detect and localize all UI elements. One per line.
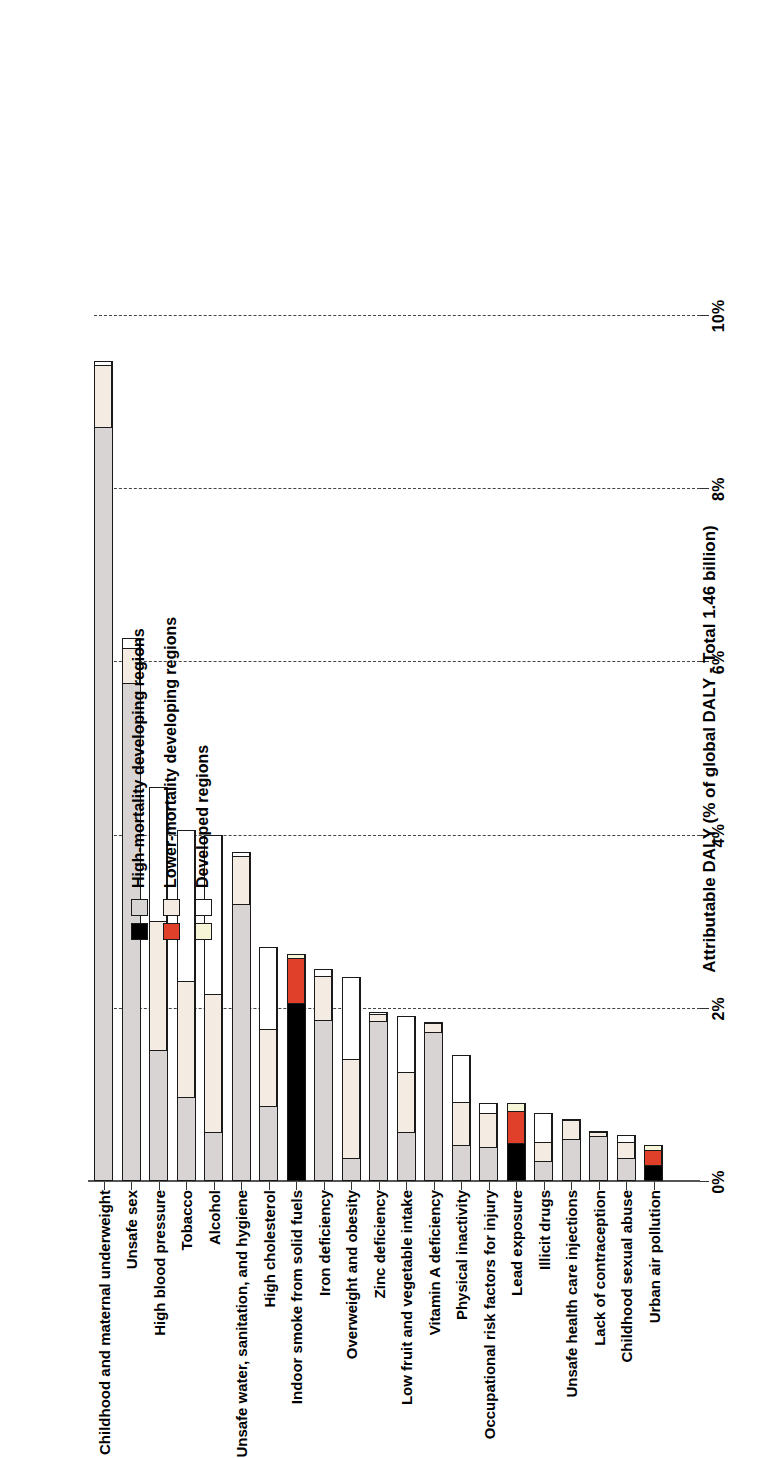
category-label: Vitamin A deficiency	[425, 1190, 442, 1335]
bar-segment-high-mortality	[618, 1159, 635, 1180]
legend-swatch-alt	[163, 923, 180, 940]
bar-segment-developed	[618, 1136, 635, 1143]
legend-swatch	[131, 899, 148, 916]
bar	[94, 361, 113, 1181]
category-tick	[434, 1182, 435, 1190]
bar-segment-lower-mortality	[508, 1112, 525, 1144]
bar-segment-high-mortality	[645, 1166, 662, 1180]
bar-segment-high-mortality	[590, 1137, 607, 1180]
bar-segment-developed	[645, 1147, 662, 1152]
legend-swatch	[195, 899, 212, 916]
bar	[479, 1103, 498, 1181]
bar-segment-lower-mortality	[618, 1143, 635, 1160]
bar	[507, 1103, 526, 1181]
category-label: Zinc deficiency	[370, 1190, 387, 1298]
bar-segment-lower-mortality	[563, 1121, 580, 1139]
bar-segment-developed	[288, 955, 305, 958]
bar-segment-lower-mortality	[288, 959, 305, 1005]
legend-swatch-alt	[195, 923, 212, 940]
bar	[424, 1022, 443, 1181]
bar-segment-developed	[343, 979, 360, 1060]
category-tick	[324, 1182, 325, 1190]
bar-segment-high-mortality	[370, 1022, 387, 1180]
category-tick	[379, 1182, 380, 1190]
bar-segment-lower-mortality	[233, 857, 250, 904]
category-label: Illicit drugs	[535, 1190, 552, 1270]
category-tick	[269, 1182, 270, 1190]
category-tick	[214, 1182, 215, 1190]
bar-segment-high-mortality	[233, 905, 250, 1180]
category-label: Unsafe water, sanitation, and hygiene	[233, 1190, 250, 1458]
category-tick	[351, 1182, 352, 1190]
category-tick	[406, 1182, 407, 1190]
bar	[397, 1016, 416, 1181]
category-label: High cholesterol	[260, 1190, 277, 1308]
legend-item: Lower-mortality developing regions	[160, 617, 182, 940]
bar-segment-high-mortality	[480, 1148, 497, 1180]
bar-segment-lower-mortality	[150, 922, 167, 1051]
category-label: Low fruit and vegetable intake	[398, 1190, 415, 1405]
category-label: Lead exposure	[508, 1190, 525, 1296]
bar-segment-lower-mortality	[95, 366, 112, 428]
category-label: Overweight and obesity	[343, 1190, 360, 1359]
category-label: Urban air pollution	[645, 1190, 662, 1323]
bar	[452, 1055, 471, 1181]
bar-segment-lower-mortality	[425, 1024, 442, 1033]
category-label: Unsafe health care injections	[563, 1190, 580, 1398]
axis-title: Attributable DALY (% of global DALY - To…	[700, 316, 720, 1182]
category-label: Childhood sexual abuse	[618, 1190, 635, 1363]
bar-segment-lower-mortality	[480, 1114, 497, 1148]
bar-segment-high-mortality	[178, 1098, 195, 1180]
category-tick	[296, 1182, 297, 1190]
bar-segment-developed	[425, 1023, 442, 1025]
bar	[644, 1146, 663, 1182]
bar-segment-high-mortality	[508, 1144, 525, 1180]
bar-segment-lower-mortality	[370, 1015, 387, 1022]
bar-segment-high-mortality	[150, 1051, 167, 1180]
category-tick	[626, 1182, 627, 1190]
category-tick	[571, 1182, 572, 1190]
bar-segment-lower-mortality	[178, 982, 195, 1098]
bar-segment-high-mortality	[288, 1004, 305, 1180]
bar-segment-developed	[535, 1114, 552, 1143]
bar-segment-lower-mortality	[205, 995, 222, 1133]
bar-segment-developed	[563, 1120, 580, 1122]
category-tick	[544, 1182, 545, 1190]
bar	[369, 1012, 388, 1181]
bar	[562, 1119, 581, 1181]
category-tick	[461, 1182, 462, 1190]
legend: High-mortality developing regionsLower-m…	[128, 617, 224, 940]
category-label: Indoor smoke from solid fuels	[288, 1190, 305, 1404]
bar-segment-high-mortality	[205, 1133, 222, 1180]
bar-segment-high-mortality	[343, 1159, 360, 1180]
category-label: Tobacco	[178, 1190, 195, 1251]
category-label: Childhood and maternal underweight	[95, 1190, 112, 1455]
bar-segment-developed	[260, 948, 277, 1030]
category-tick	[104, 1182, 105, 1190]
bar-segment-lower-mortality	[398, 1073, 415, 1133]
category-label: Unsafe sex	[123, 1190, 140, 1269]
category-tick	[241, 1182, 242, 1190]
gridline	[94, 315, 700, 316]
bar-segment-high-mortality	[535, 1162, 552, 1180]
bar-segment-developed	[95, 362, 112, 366]
legend-item: Developed regions	[192, 617, 214, 940]
legend-swatch-alt	[131, 923, 148, 940]
bar	[534, 1113, 553, 1181]
bar	[589, 1131, 608, 1181]
bar-segment-high-mortality	[425, 1033, 442, 1180]
legend-label: Developed regions	[194, 745, 212, 888]
legend-swatch	[163, 899, 180, 916]
bar-segment-lower-mortality	[535, 1143, 552, 1162]
bar-segment-lower-mortality	[645, 1151, 662, 1166]
category-tick	[159, 1182, 160, 1190]
bar-segment-developed	[453, 1056, 470, 1103]
bar-segment-high-mortality	[563, 1140, 580, 1180]
category-label: High blood pressure	[150, 1190, 167, 1336]
bar-segment-lower-mortality	[260, 1030, 277, 1107]
gridline	[94, 488, 700, 489]
category-tick	[489, 1182, 490, 1190]
bar-segment-lower-mortality	[343, 1060, 360, 1159]
